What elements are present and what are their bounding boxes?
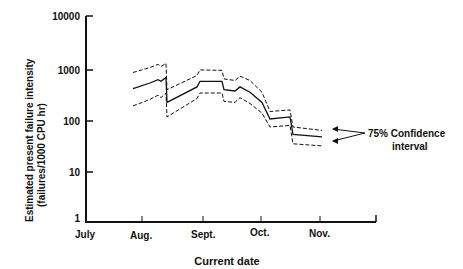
arrowhead-lower-icon (332, 138, 338, 144)
x-tick-oct: Oct. (250, 227, 270, 238)
x-tick-nov: Nov. (309, 228, 330, 239)
x-tick-sept: Sept. (191, 229, 216, 240)
y-axis: 10000 1000 100 10 1 (52, 11, 93, 224)
y-tick-1: 1 (74, 213, 80, 224)
plot-series (133, 63, 322, 145)
x-axis: July Aug. Sept. Oct. Nov. Current date (75, 215, 376, 267)
chart-canvas: Estimated present failure intensity (fai… (0, 0, 463, 269)
y-axis-label: Estimated present failure intensity (fai… (24, 58, 47, 222)
annotation-line-2: interval (392, 141, 428, 152)
confidence-annotation: 75% Confidence interval (332, 126, 446, 152)
x-axis-label: Current date (194, 255, 259, 267)
y-tick-100: 100 (63, 116, 80, 127)
y-axis-label-line-2: (failures/1000 CPU hr) (36, 103, 47, 207)
y-tick-10: 10 (69, 167, 81, 178)
y-axis-label-line-1: Estimated present failure intensity (24, 58, 35, 222)
y-tick-10000: 10000 (52, 11, 80, 22)
arrowhead-upper-icon (332, 126, 338, 132)
lower-bound-line (133, 93, 322, 146)
annotation-line-1: 75% Confidence (368, 128, 446, 139)
y-tick-1000: 1000 (58, 65, 81, 76)
estimate-line (133, 78, 322, 137)
x-tick-july: July (75, 229, 95, 240)
x-tick-aug: Aug. (130, 230, 152, 241)
